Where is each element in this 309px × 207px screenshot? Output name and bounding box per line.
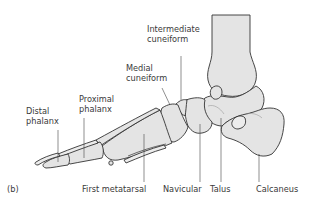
leader-medial-cuneiform — [162, 88, 170, 105]
panel-label: (b) — [7, 184, 19, 194]
label-navicular: Navicular — [163, 184, 202, 194]
tibia-bone — [208, 15, 257, 96]
label-proximal-phalanx: Proximal phalanx — [79, 94, 114, 114]
label-medial-cuneiform: Medial cuneiform — [126, 63, 167, 83]
label-first-metatarsal: First metatarsal — [82, 184, 146, 194]
label-talus: Talus — [210, 184, 230, 194]
sesamoid-bone — [109, 161, 113, 165]
label-distal-phalanx: Distal phalanx — [26, 106, 59, 126]
label-intermediate-cuneiform: Intermediate cuneiform — [147, 24, 200, 44]
label-calcaneus: Calcaneus — [256, 184, 298, 194]
fibula-knob — [210, 86, 222, 99]
